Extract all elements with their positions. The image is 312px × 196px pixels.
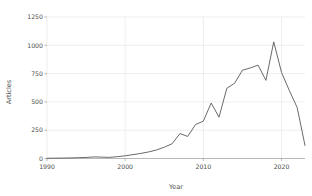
gridlines-group bbox=[47, 17, 305, 159]
y-tick-label: 500 bbox=[31, 98, 43, 105]
y-tick-label: 0 bbox=[39, 155, 43, 162]
y-axis-title: Articles bbox=[5, 79, 13, 104]
data-series-line bbox=[47, 42, 305, 158]
y-tick-label-group: 025050075010001250 bbox=[27, 13, 43, 162]
x-tick-group bbox=[45, 17, 282, 161]
x-tick-label: 2000 bbox=[117, 163, 133, 170]
chart-canvas: 025050075010001250 1990200020102020 Arti… bbox=[0, 0, 312, 196]
x-tick-label: 1990 bbox=[39, 163, 55, 170]
line-chart: 025050075010001250 1990200020102020 Arti… bbox=[0, 0, 312, 196]
x-axis-title: Year bbox=[168, 183, 183, 191]
y-tick-label: 750 bbox=[31, 70, 43, 77]
x-tick-label: 2020 bbox=[274, 163, 290, 170]
y-tick-label: 1000 bbox=[27, 42, 43, 49]
y-tick-label: 1250 bbox=[27, 13, 43, 20]
x-tick-label: 2010 bbox=[195, 163, 211, 170]
x-tick-label-group: 1990200020102020 bbox=[39, 163, 289, 170]
y-tick-label: 250 bbox=[31, 126, 43, 133]
